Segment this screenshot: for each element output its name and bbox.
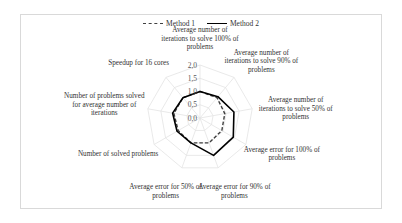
axis-label-line: Speedup for 16 cores bbox=[108, 59, 169, 67]
axis-label: Average number ofiterations to solve 90%… bbox=[224, 49, 298, 74]
axis-label-line: problems bbox=[187, 43, 214, 51]
axis-label: Number of solved problems bbox=[78, 150, 159, 158]
axis-label: Average error for 90% ofproblems bbox=[198, 183, 271, 200]
axis-label-line: iterations to solve 50% of bbox=[259, 105, 333, 113]
axis-label-line: problems bbox=[221, 192, 248, 200]
axis-label-line: Average number of bbox=[172, 26, 228, 34]
axis-label: Average error for 50% ofproblems bbox=[129, 183, 202, 200]
axis-label-line: Number of problems solved bbox=[64, 92, 145, 100]
axis-label-line: problems bbox=[248, 66, 275, 74]
axis-label-line: iterations to solve 90% of bbox=[224, 57, 298, 65]
axis-label: Speedup for 16 cores bbox=[108, 59, 169, 67]
radial-tick-label: 0,5 bbox=[188, 100, 198, 109]
axis-label-line: Average error for 90% of bbox=[198, 183, 271, 191]
axis-label-line: Average error for 100% of bbox=[244, 146, 321, 154]
radial-tick-label: 1,5 bbox=[188, 74, 198, 83]
axis-label-line: iterations to solve 100% of bbox=[161, 35, 239, 43]
axis-label: Average number ofiterations to solve 50%… bbox=[259, 96, 333, 121]
axis-label-line: Average number of bbox=[234, 49, 290, 57]
axis-label-line: Number of solved problems bbox=[78, 150, 159, 158]
axis-label-line: Average number of bbox=[268, 96, 324, 104]
axis-label-line: problems bbox=[269, 154, 296, 162]
axis-label-line: problems bbox=[282, 113, 309, 121]
axis-spoke bbox=[200, 109, 252, 118]
axis-label-line: for average number of bbox=[72, 101, 137, 109]
radial-tick-label: 2,0 bbox=[188, 61, 198, 70]
radial-tick-labels: 0,00,51,01,52,0 bbox=[188, 61, 198, 123]
axis-label: Average number ofiterations to solve 100… bbox=[161, 26, 239, 51]
axis-label-line: iterations bbox=[91, 109, 118, 117]
radial-tick-label: 1,0 bbox=[188, 87, 198, 96]
radial-tick-label: 0,0 bbox=[188, 114, 198, 123]
axis-labels: Average number ofiterations to solve 100… bbox=[64, 26, 333, 200]
axis-label-line: Average error for 50% of bbox=[129, 183, 202, 191]
radar-chart: 0,00,51,01,52,0 Average number ofiterati… bbox=[0, 0, 402, 223]
axis-label-line: problems bbox=[152, 192, 179, 200]
axis-label: Number of problems solvedfor average num… bbox=[64, 92, 145, 117]
axis-label: Average error for 100% ofproblems bbox=[244, 146, 321, 163]
